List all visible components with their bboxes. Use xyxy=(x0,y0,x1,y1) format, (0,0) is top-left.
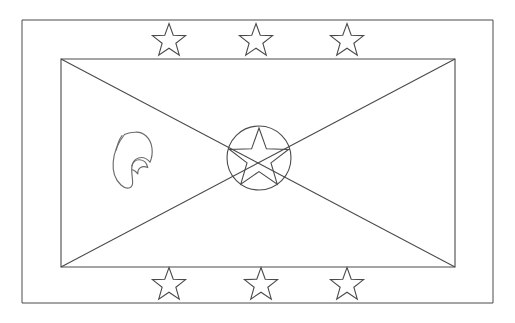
coloring-page-canvas: Flag of Grenada Coloring Page xyxy=(0,0,515,323)
grenada-flag-lineart xyxy=(0,0,515,323)
page-background xyxy=(0,0,515,323)
